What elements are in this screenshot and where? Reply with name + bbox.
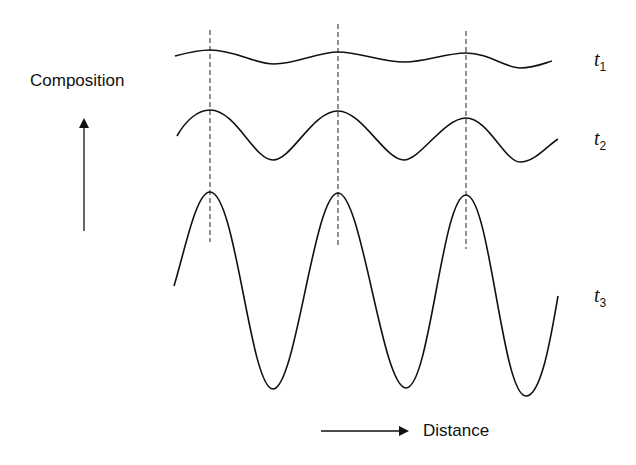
diagram-canvas bbox=[0, 0, 636, 465]
curve-label-t2: t2 bbox=[594, 127, 606, 153]
curve-t1 bbox=[175, 50, 552, 68]
curve-t2 bbox=[177, 110, 558, 162]
curve-label-t3-subscript: 3 bbox=[600, 296, 607, 310]
curve-label-t1: t1 bbox=[594, 48, 606, 74]
x-axis-label: Distance bbox=[423, 421, 489, 441]
curve-label-t1-subscript: 1 bbox=[600, 60, 607, 74]
y-axis-label: Composition bbox=[30, 71, 125, 91]
curve-label-t3: t3 bbox=[594, 284, 606, 310]
curve-label-t2-subscript: 2 bbox=[600, 139, 607, 153]
curve-t3 bbox=[174, 192, 558, 396]
